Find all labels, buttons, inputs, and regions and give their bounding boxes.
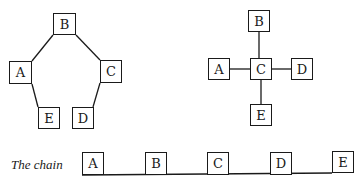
star-node-c: C: [250, 58, 272, 80]
chain-node-c: C: [207, 152, 229, 175]
pentagon-node-d: D: [72, 107, 94, 129]
star-node-d: D: [291, 58, 313, 80]
edge-pentagon-a-b: [32, 35, 53, 61]
chain-node-b: B: [145, 152, 167, 175]
pentagon-node-b: B: [53, 13, 76, 35]
pentagon-node-e: E: [38, 107, 60, 129]
chain-label: The chain: [11, 157, 63, 173]
star-node-a: A: [208, 58, 230, 80]
edge-pentagon-c-d: [93, 83, 100, 107]
edge-pentagon-a-e: [32, 84, 38, 107]
star-node-b: B: [248, 10, 270, 32]
chain-node-d: D: [270, 152, 292, 175]
pentagon-node-a: A: [9, 61, 32, 84]
chain-node-a: A: [82, 152, 104, 175]
pentagon-node-c: C: [100, 60, 122, 83]
star-node-e: E: [250, 104, 272, 126]
edge-pentagon-b-c: [76, 35, 100, 60]
chain-node-e: E: [332, 151, 354, 173]
